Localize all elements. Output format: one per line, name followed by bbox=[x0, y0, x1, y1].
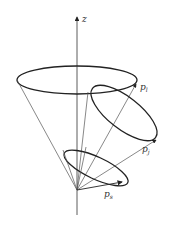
diagram-canvas: z pl pj ps bbox=[0, 0, 169, 229]
z-axis-label: z bbox=[81, 14, 87, 24]
cone-diagram: z pl pj ps bbox=[0, 0, 169, 229]
middle-cone bbox=[77, 76, 165, 190]
label-p-l: pl bbox=[140, 82, 148, 93]
label-p-s: ps bbox=[104, 189, 113, 200]
label-p-j: pj bbox=[142, 144, 150, 156]
inner-cone bbox=[60, 143, 133, 193]
inner-cone-base bbox=[60, 143, 133, 193]
middle-cone-base bbox=[83, 76, 166, 150]
vector-p-l bbox=[77, 84, 136, 190]
